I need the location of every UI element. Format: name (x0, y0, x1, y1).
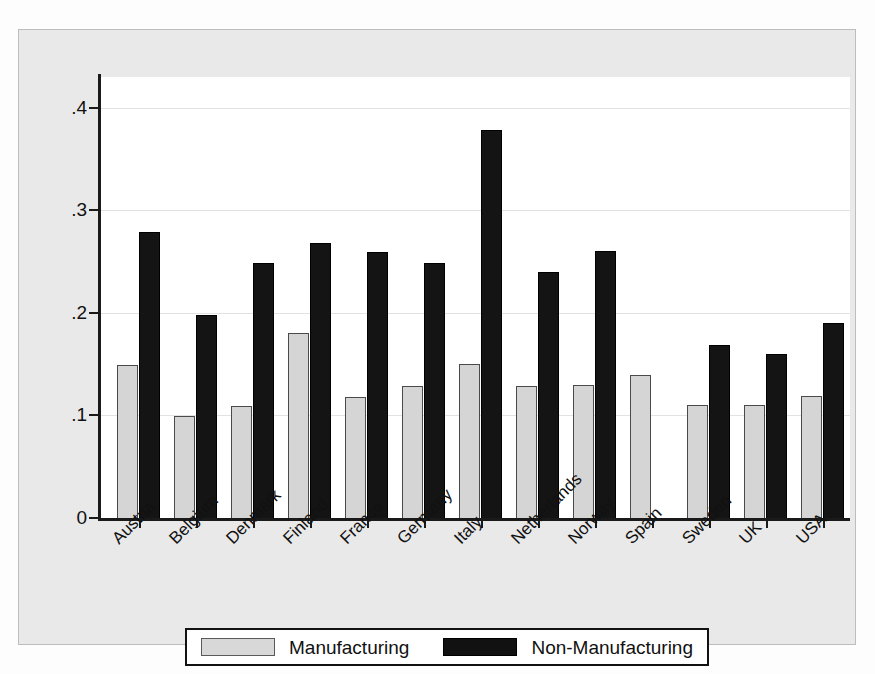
bar-manufacturing-netherlands (516, 386, 537, 520)
bar-manufacturing-sweden (687, 405, 708, 520)
legend-label: Non-Manufacturing (531, 638, 693, 657)
y-tick-label: .1 (47, 405, 87, 424)
bar-manufacturing-norway (573, 385, 594, 520)
bar-non-manufacturing-finland (310, 243, 331, 520)
y-tick-label: .2 (47, 303, 87, 322)
y-tick-mark (89, 209, 100, 211)
bar-manufacturing-germany (402, 386, 423, 520)
y-tick-mark (89, 517, 100, 519)
legend-label: Manufacturing (289, 638, 409, 657)
bar-non-manufacturing-netherlands (538, 272, 559, 520)
legend-item-manu: Manufacturing (201, 638, 443, 657)
y-tick-label: 0 (47, 508, 87, 527)
x-tick-label-uk: UK (736, 518, 765, 547)
legend-swatch-nonmanu (443, 638, 517, 656)
bar-manufacturing-austria (117, 365, 138, 520)
bar-manufacturing-belgium (174, 416, 195, 520)
chart-legend: ManufacturingNon-Manufacturing (185, 628, 709, 666)
bar-non-manufacturing-austria (139, 232, 160, 520)
x-tick-mark (766, 521, 768, 528)
bar-manufacturing-france (345, 397, 366, 520)
bar-manufacturing-usa (801, 396, 822, 520)
plot-area (100, 77, 850, 520)
bar-non-manufacturing-usa (823, 323, 844, 520)
y-axis-line (98, 74, 101, 521)
bar-manufacturing-finland (288, 333, 309, 520)
gridline (100, 108, 850, 109)
gridline (100, 313, 850, 314)
y-axis-labels: 0.1.2.3.4 (33, 30, 87, 646)
legend-swatch-manu (201, 638, 275, 656)
bar-non-manufacturing-norway (595, 251, 616, 520)
bar-manufacturing-italy (459, 364, 480, 520)
bar-manufacturing-spain (630, 375, 651, 520)
gridline (100, 210, 850, 211)
y-tick-mark (89, 107, 100, 109)
y-tick-mark (89, 312, 100, 314)
y-tick-label: .4 (47, 98, 87, 117)
chart-page: 0.1.2.3.4 AustriaBelgiumDenmarkFinlandFr… (0, 0, 875, 674)
y-tick-label: .3 (47, 200, 87, 219)
bar-non-manufacturing-france (367, 252, 388, 520)
bar-non-manufacturing-uk (766, 354, 787, 520)
y-tick-mark (89, 414, 100, 416)
legend-item-nonmanu: Non-Manufacturing (443, 638, 693, 657)
bar-non-manufacturing-belgium (196, 315, 217, 520)
bar-manufacturing-denmark (231, 406, 252, 520)
bar-manufacturing-uk (744, 405, 765, 520)
figure-region: 0.1.2.3.4 AustriaBelgiumDenmarkFinlandFr… (18, 29, 856, 645)
bar-non-manufacturing-germany (424, 263, 445, 520)
bar-non-manufacturing-denmark (253, 263, 274, 520)
bar-non-manufacturing-italy (481, 130, 502, 520)
